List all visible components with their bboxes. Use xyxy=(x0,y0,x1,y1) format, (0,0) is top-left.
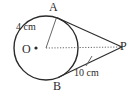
geometry-drawing xyxy=(0,0,138,97)
point-label-a: A xyxy=(49,1,58,13)
radius-segment-oa xyxy=(46,18,57,49)
tangent-segment-ap xyxy=(57,18,123,48)
point-label-o: O xyxy=(22,43,31,55)
tangent-measure-label: 10 cm xyxy=(74,68,99,78)
point-label-p: P xyxy=(120,40,127,52)
geometry-figure: A B O P 4 cm 10 cm xyxy=(0,0,138,97)
radius-measure-label: 4 cm xyxy=(16,22,36,32)
point-label-b: B xyxy=(53,80,61,92)
tick-mark-icon xyxy=(86,56,92,66)
center-dot-icon xyxy=(34,46,37,49)
line-op-dotted xyxy=(46,47,121,48)
